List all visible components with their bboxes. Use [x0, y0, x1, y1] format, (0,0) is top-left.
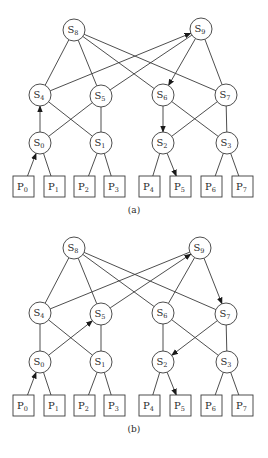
route-arrow-s7-s2: [172, 321, 218, 356]
link-s4-s9: [50, 252, 190, 309]
processor-node-p0: P0: [13, 395, 34, 416]
link-p6-s3: [215, 153, 223, 176]
switch-node-s3: S3: [216, 351, 238, 373]
processor-node-p4: P4: [139, 395, 160, 416]
link-s9-s6: [168, 258, 194, 304]
link-s8-s4: [45, 40, 69, 86]
processor-node-p5: P5: [170, 176, 191, 197]
processor-node-p6: P6: [201, 176, 222, 197]
link-p3-s1: [104, 373, 111, 396]
processor-node-p0: P0: [13, 176, 34, 197]
processor-node-p1: P1: [44, 395, 65, 416]
link-p1-s0: [44, 153, 52, 176]
diagram-a: S0S1S2S3S4S5S6S7S8S9P0P1P2P3P4P5P6P7(a): [13, 18, 253, 215]
link-p1-s0: [44, 372, 52, 395]
switch-node-s1: S1: [90, 351, 112, 373]
switch-node-s8: S8: [63, 237, 85, 259]
processor-node-p2: P2: [74, 176, 95, 197]
processor-node-p7: P7: [232, 395, 253, 416]
processor-node-p7: P7: [232, 176, 253, 197]
switch-node-s5: S5: [90, 85, 112, 107]
diagram-b: S0S1S2S3S4S5S6S7S8S9P0P1P2P3P4P5P6P7(b): [13, 237, 253, 434]
processor-node-p1: P1: [44, 176, 65, 197]
diagram-caption-b: (b): [128, 424, 141, 434]
link-s3-s7: [226, 325, 227, 351]
processor-node-p2: P2: [74, 395, 95, 416]
processor-node-p6: P6: [201, 395, 222, 416]
edges: [28, 33, 239, 176]
link-s8-s7: [84, 34, 216, 90]
switch-node-s4: S4: [29, 84, 51, 106]
link-p4-s2: [153, 373, 160, 396]
switch-node-s6: S6: [152, 302, 174, 324]
route-arrow-s2-p5: [167, 153, 176, 176]
switch-node-s7: S7: [215, 303, 237, 325]
processor-node-p3: P3: [104, 395, 125, 416]
switch-node-s9: S9: [190, 18, 212, 40]
switch-node-s1: S1: [90, 132, 112, 154]
link-s8-s5: [78, 40, 97, 86]
link-s8-s4: [45, 258, 69, 304]
route-arrow-s9-s6: [169, 39, 196, 86]
switch-node-s0: S0: [29, 351, 51, 373]
link-s8-s5: [78, 258, 97, 304]
link-p7-s3: [231, 372, 239, 395]
network-diagram-canvas: S0S1S2S3S4S5S6S7S8S9P0P1P2P3P4P5P6P7(a) …: [0, 0, 268, 458]
route-arrow-s2-p5: [167, 372, 176, 395]
switch-node-s2: S2: [152, 132, 174, 154]
switch-node-s4: S4: [29, 302, 51, 324]
switch-node-s3: S3: [216, 132, 238, 154]
edges: [28, 252, 239, 395]
link-p4-s2: [153, 154, 160, 177]
link-s9-s7: [205, 39, 222, 84]
route-arrow-s9-s7: [204, 258, 222, 304]
link-p2-s1: [89, 153, 98, 176]
link-p7-s3: [231, 153, 239, 176]
route-arrow-s5-s9: [110, 254, 191, 308]
switch-node-s8: S8: [63, 19, 85, 41]
switch-node-s5: S5: [90, 303, 112, 325]
link-s5-s9: [110, 35, 192, 90]
processor-node-p5: P5: [170, 395, 191, 416]
diagram-caption-a: (a): [128, 205, 140, 215]
switch-node-s6: S6: [152, 84, 174, 106]
link-p3-s1: [104, 154, 111, 177]
processor-node-p3: P3: [104, 176, 125, 197]
route-arrow-p0-s0: [28, 372, 37, 395]
route-arrow-p0-s0: [28, 153, 37, 176]
processor-node-p4: P4: [139, 176, 160, 197]
link-p6-s3: [215, 372, 223, 395]
link-p2-s1: [89, 372, 98, 395]
switch-node-s2: S2: [152, 351, 174, 373]
link-s3-s7: [226, 106, 227, 132]
link-s8-s6: [83, 255, 154, 307]
route-arrow-s4-s9: [50, 33, 191, 91]
switch-node-s7: S7: [215, 84, 237, 106]
switch-node-s0: S0: [29, 132, 51, 154]
switch-node-s9: S9: [189, 237, 211, 259]
